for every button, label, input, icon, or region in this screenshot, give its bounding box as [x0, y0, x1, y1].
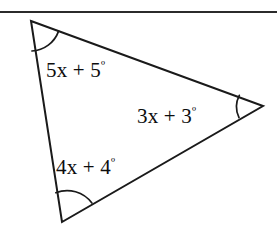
- angle-label-bottom-left: 4x + 4º: [56, 155, 115, 178]
- triangle-figure: 5x + 5º 3x + 3º 4x + 4º: [0, 0, 277, 233]
- degree-symbol-top-left: º: [101, 57, 105, 72]
- angle-expression-top-left: 5x + 5: [46, 58, 101, 82]
- degree-symbol-bottom-left: º: [111, 154, 115, 169]
- angle-label-right: 3x + 3º: [137, 104, 196, 127]
- angle-arc-right: [237, 95, 240, 117]
- angle-label-top-left: 5x + 5º: [46, 58, 105, 81]
- angle-expression-bottom-left: 4x + 4: [56, 155, 111, 179]
- degree-symbol-right: º: [192, 103, 196, 118]
- angle-expression-right: 3x + 3: [137, 104, 192, 128]
- angle-arc-bottom-left: [56, 191, 92, 203]
